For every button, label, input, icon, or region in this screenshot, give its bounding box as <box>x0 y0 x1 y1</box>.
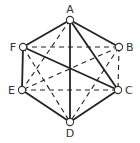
vertex-label-f: F <box>10 41 16 54</box>
edge-b-d-dashed <box>70 47 119 122</box>
edge-f-e-solid <box>22 47 23 90</box>
edge-a-e-dashed <box>22 20 70 90</box>
hexagon-graph-diagram: ABCDEF <box>0 0 140 143</box>
vertex-label-e: E <box>8 84 15 97</box>
solid-edges <box>22 20 119 122</box>
vertex-d <box>66 118 73 125</box>
edge-a-f-solid <box>23 20 70 47</box>
vertex-label-b: B <box>126 41 134 54</box>
vertex-label-a: A <box>66 3 74 16</box>
vertex-label-d: D <box>66 127 74 140</box>
vertex-label-c: C <box>125 84 133 97</box>
edge-a-b-solid <box>70 20 119 47</box>
vertex-b <box>115 43 122 50</box>
edge-d-c-solid <box>70 90 118 122</box>
edge-b-c-dashed <box>118 47 119 90</box>
vertex-e <box>18 86 25 93</box>
vertex-c <box>114 86 121 93</box>
edge-e-d-solid <box>22 90 70 122</box>
vertex-f <box>19 43 26 50</box>
vertex-a <box>66 16 73 23</box>
